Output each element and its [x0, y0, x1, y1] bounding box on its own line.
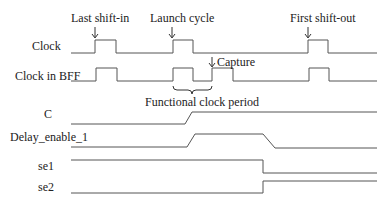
arrow-down-icon [169, 27, 175, 38]
signal-label-se1: se1 [38, 159, 54, 173]
annotation-capture: Capture [217, 55, 255, 69]
signal-label-c: C [44, 107, 52, 121]
signal-label-clock-in-bff: Clock in BFF [15, 69, 81, 83]
signal-label-clock: Clock [32, 39, 61, 53]
waveform-se1 [71, 160, 377, 173]
signal-label-se2: se2 [38, 180, 54, 194]
timing-diagram: Last shift-in Launch cycle First shift-o… [0, 0, 389, 205]
arrow-down-icon [209, 57, 215, 67]
signal-label-delay-enable-1: Delay_enable_1 [10, 130, 88, 144]
arrow-down-icon [92, 27, 98, 38]
waveform-delay-enable-1 [71, 134, 377, 148]
waveform-c [71, 112, 377, 124]
annotation-functional-clock-period: Functional clock period [145, 95, 259, 109]
brace-icon [173, 86, 212, 94]
waveform-clock [71, 40, 377, 53]
arrow-down-icon [305, 27, 311, 38]
annotation-last-shift-in: Last shift-in [71, 11, 129, 25]
annotation-launch-cycle: Launch cycle [150, 11, 214, 25]
waveform-se2 [71, 181, 377, 193]
annotation-first-shift-out: First shift-out [290, 11, 356, 25]
waveform-clock-in-bff [71, 68, 377, 81]
